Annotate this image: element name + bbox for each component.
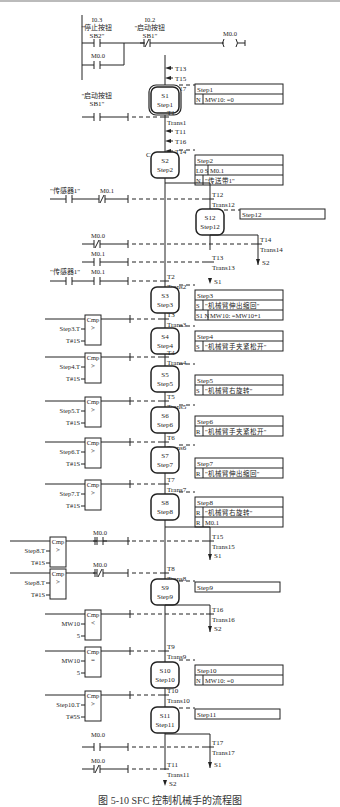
cmp-in1: Step3.T: [60, 325, 80, 332]
action-title: Step2: [197, 157, 213, 165]
step-box: [151, 87, 179, 113]
step-id: S3: [161, 292, 169, 300]
nc-slash: [98, 569, 102, 577]
step-name: Step11: [155, 721, 175, 729]
action-title: Step11: [197, 711, 217, 719]
coil-address: M0.0: [223, 30, 237, 37]
transition-id: T7: [167, 476, 175, 484]
step-id: S12: [205, 214, 216, 222]
action-title: Step8: [197, 499, 213, 507]
nc-slash: [95, 240, 99, 248]
cmp-operator: >: [91, 362, 95, 370]
cmp-operator: <: [91, 619, 95, 627]
step-id: S5: [161, 371, 169, 379]
jump-label: T11: [175, 128, 187, 136]
contact-label: "传感器1": [50, 186, 80, 195]
step-name: Step5: [157, 380, 173, 388]
transition-id: T6: [167, 434, 175, 442]
jump-arrow-icon: [165, 66, 171, 70]
contact-address: M0.0: [91, 232, 105, 239]
contact-label: "传感器1": [50, 267, 80, 276]
step-id: S8: [161, 499, 169, 507]
jump-target: S1: [214, 761, 222, 769]
contact-label: "启动按钮: [135, 23, 166, 32]
transition-id: T9: [167, 643, 175, 651]
cmp-in2: T#1S: [31, 559, 45, 566]
cmp-operator: >: [91, 324, 95, 332]
action-title: Step3: [197, 292, 213, 300]
cmp-operator: >: [91, 489, 95, 497]
step-name: Step10: [155, 676, 175, 684]
action-text: M0.1: [205, 519, 219, 526]
step-name: Step12: [200, 223, 220, 231]
action-qualifier: S: [196, 302, 200, 309]
cmp-in1: MW10: [62, 657, 80, 664]
transition-name: Trans16: [212, 616, 235, 624]
action-qualifier: R: [196, 509, 201, 516]
contact-address: M0.0: [93, 561, 107, 568]
action-qualifier: S1 N: [196, 312, 209, 319]
step-name: Step9: [157, 593, 173, 601]
cmp-label: Cmp: [52, 538, 65, 545]
transition-name: Trans11: [167, 771, 190, 779]
step-box: [151, 328, 179, 354]
nc-slash: [95, 765, 99, 773]
cmp-in2: T#1S: [66, 419, 80, 426]
step-id: S10: [160, 667, 171, 675]
action-text: "传送带1": [205, 176, 235, 185]
action-title: Step10: [197, 667, 217, 675]
action-text: M0.1: [210, 167, 224, 174]
step-name: Step1: [157, 101, 173, 109]
jump-label: T15: [175, 75, 187, 83]
step-marker: C: [146, 151, 151, 159]
cmp-in2: T#5S: [66, 713, 80, 720]
transition-id: T17: [212, 739, 224, 747]
transition-id: T13: [212, 254, 224, 262]
cmp-in2: T#1S: [66, 337, 80, 344]
step-box: [151, 152, 179, 178]
cmp-in1: MW10: [62, 620, 80, 627]
action-qualifier: N: [196, 96, 201, 103]
step-name: Step7: [157, 461, 173, 469]
cmp-label: Cmp: [87, 648, 100, 655]
step-id: S6: [161, 412, 169, 420]
action-text: "机械臂手夹紧松开": [205, 427, 267, 436]
cmp-label: Cmp: [87, 316, 100, 323]
transition-id: T2: [167, 273, 175, 281]
cmp-label: Cmp: [87, 692, 100, 699]
contact-address: M0.1: [100, 187, 114, 194]
cmp-operator: >: [56, 578, 60, 586]
cmp-in1: Step6.T: [60, 448, 80, 455]
step-name: Step8: [157, 508, 173, 516]
step-id: S2: [161, 157, 169, 165]
step-box: [151, 494, 179, 520]
action-title: Step5: [197, 377, 213, 385]
step-box: [151, 579, 179, 605]
jump-target: S2: [214, 625, 222, 633]
cmp-label: Cmp: [87, 398, 100, 405]
contact-address: M0.0: [91, 52, 105, 59]
action-qualifier: L0 S: [196, 167, 209, 174]
step-box: [196, 209, 224, 235]
transition-id: T11: [167, 761, 179, 769]
contact-label: SB1": [90, 100, 105, 108]
action-text: MW10: =0: [205, 677, 234, 684]
cmp-in2: T#1S: [66, 502, 80, 509]
action-text: MW10: =MW10+1: [210, 312, 261, 319]
contact-address: M0.1: [91, 250, 105, 257]
action-text: "机械臂手夹紧松开": [205, 342, 267, 351]
transition-id: T3: [167, 311, 175, 319]
jump-label: T13: [175, 65, 187, 73]
step-box: [151, 407, 179, 433]
step-box: [151, 447, 179, 473]
action-title: Step12: [242, 211, 262, 219]
jump-arrow-s2: [163, 780, 167, 786]
step-id: S11: [160, 712, 171, 720]
action-title: Step6: [197, 418, 213, 426]
cmp-in1: Step8.T: [25, 547, 45, 554]
jump-arrow-s2: [208, 626, 212, 632]
cmp-label: Cmp: [87, 611, 100, 618]
transition-id: T4: [167, 349, 175, 357]
